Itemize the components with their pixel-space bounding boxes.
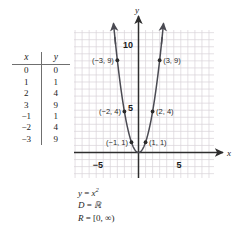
y-tick-label-10: 10 <box>123 40 133 50</box>
data-point <box>144 140 148 144</box>
data-point <box>130 140 134 144</box>
data-point-label: (3, 9) <box>163 56 181 65</box>
figure-container: x y 0 0 1 1 2 4 <box>0 0 237 228</box>
x-tick-label-5: 5 <box>176 160 181 170</box>
equation-exponent: 2 <box>96 186 99 193</box>
data-point <box>115 58 119 62</box>
data-point-label: (1, 1) <box>149 138 167 147</box>
y-tick-label-5: 5 <box>128 103 133 113</box>
data-point-label: (2, 4) <box>156 107 174 116</box>
x-tick-label-neg5: −5 <box>93 160 103 170</box>
range-value: = [0, ∞) <box>84 213 115 223</box>
data-point-label: (−3, 9) <box>92 56 114 65</box>
range-line: R = [0, ∞) <box>78 212 115 224</box>
curve-left-arrow <box>113 23 115 44</box>
domain-equals: = <box>85 200 95 210</box>
data-point-label: (−1, 1) <box>106 138 128 147</box>
domain-value: ℝ <box>94 200 101 210</box>
data-point <box>158 58 162 62</box>
curve-right-arrow <box>161 23 163 44</box>
y-axis-label: y <box>134 5 139 15</box>
data-point <box>151 110 155 114</box>
data-point-label: (−2, 4) <box>99 107 121 116</box>
domain-line: D = ℝ <box>78 199 115 211</box>
coordinate-plane: x y 10 5 −5 5 (−3, 9)(−2, 4)(−1, 1)(1, 1… <box>0 0 237 228</box>
grid-lines <box>74 30 214 178</box>
equation-line: y = x2 <box>78 184 115 199</box>
x-axis-label: x <box>226 148 231 158</box>
data-point <box>123 110 127 114</box>
data-points: (−3, 9)(−2, 4)(−1, 1)(1, 1)(2, 4)(3, 9) <box>92 56 181 147</box>
equation-equals: = <box>82 188 92 198</box>
caption-block: y = x2 D = ℝ R = [0, ∞) <box>78 184 115 224</box>
